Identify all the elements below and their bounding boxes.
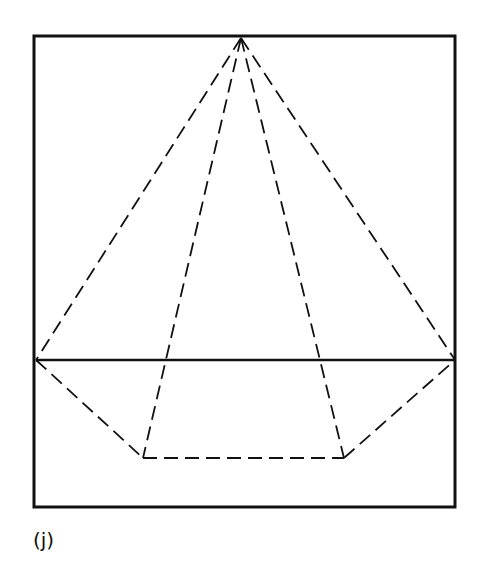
pyramid-diagram (0, 0, 483, 563)
edge-apex-left (36, 38, 241, 360)
frame (34, 36, 455, 507)
edge-apex-right (241, 38, 455, 360)
edge-apex-base-left (143, 38, 241, 458)
edge-base-left (36, 360, 143, 458)
figure-label: (j) (33, 528, 54, 552)
edge-base-right (344, 360, 455, 458)
edge-apex-base-right (241, 38, 344, 458)
